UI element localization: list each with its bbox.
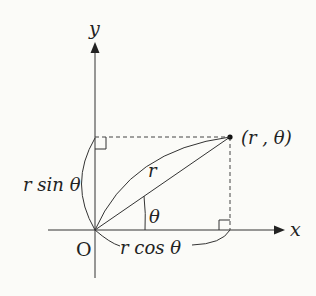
horizontal-brace-arc [95, 230, 120, 246]
x-axis-label: x [290, 218, 301, 240]
vertical-component-label: r sin θ [23, 174, 81, 195]
origin-label: O [76, 238, 92, 260]
angle-label: θ [149, 206, 160, 227]
polar-coordinates-diagram: y x O (r , θ) r θ r sin θ r cos θ [0, 0, 316, 296]
right-angle-marker-x [219, 220, 230, 230]
horizontal-component-label: r cos θ [120, 237, 181, 258]
angle-arc [144, 196, 145, 230]
point-label: (r , θ) [241, 127, 292, 148]
vertical-brace-arc [82, 138, 96, 230]
y-axis-arrow-icon [91, 42, 100, 53]
radius-segment [95, 137, 230, 230]
x-axis-arrow-icon [274, 226, 285, 235]
y-axis-label: y [88, 17, 100, 39]
radius-label: r [148, 160, 158, 181]
horizontal-brace-arc-end [192, 230, 230, 245]
right-angle-marker-y [95, 137, 106, 149]
